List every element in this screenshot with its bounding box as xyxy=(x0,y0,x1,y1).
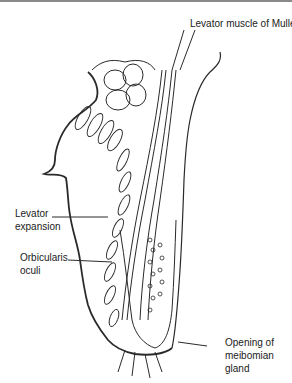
label-levator-expansion-line2: expansion xyxy=(15,221,61,233)
label-orbicularis-line1: Orbicularis xyxy=(20,252,68,264)
label-meibomian-line3: gland xyxy=(225,363,249,375)
label-orbicularis-line2: oculi xyxy=(20,265,41,277)
label-meibomian-line1: Opening of xyxy=(225,337,274,349)
label-levator-expansion-line1: Levator xyxy=(15,208,48,220)
eyelid-illustration xyxy=(0,0,292,383)
label-meibomian-line2: meibomian xyxy=(225,350,274,362)
label-levator-muscle-of-muller: Levator muscle of Muller xyxy=(190,18,292,30)
